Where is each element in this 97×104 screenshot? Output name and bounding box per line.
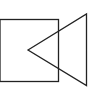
diagram-canvas — [0, 0, 97, 104]
video-camera-icon — [0, 0, 97, 104]
triangle-shape — [28, 14, 87, 86]
